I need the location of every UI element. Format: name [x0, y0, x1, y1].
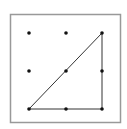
- grid-dot: [100, 31, 104, 35]
- grid-dot: [100, 69, 104, 73]
- grid-dot: [27, 107, 31, 111]
- grid-dot: [64, 31, 68, 35]
- grid-dot: [100, 107, 104, 111]
- grid-dot: [64, 69, 68, 73]
- frame-border: [11, 15, 121, 123]
- grid-dot: [64, 107, 68, 111]
- grid-dot: [27, 69, 31, 73]
- geoboard-diagram: [0, 0, 127, 129]
- grid-dot: [27, 31, 31, 35]
